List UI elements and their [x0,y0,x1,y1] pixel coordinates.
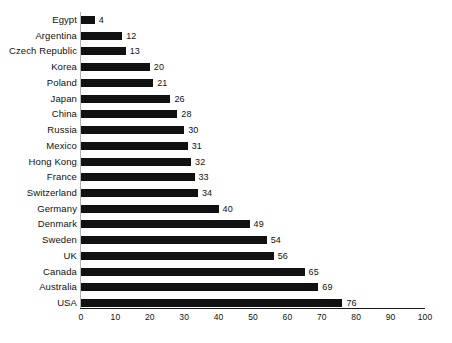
bar [81,47,126,55]
bar-value-label: 20 [154,63,164,72]
x-axis-tick-label: 0 [79,313,84,322]
bar-row: Japan26 [0,91,452,107]
x-axis-tick-label: 20 [145,313,155,322]
bar-value-label: 13 [130,47,140,56]
bar-value-label: 56 [278,251,288,260]
bar-value-label: 21 [157,78,167,87]
bar-value-label: 69 [322,283,332,292]
bar-category-label: Korea [51,62,77,72]
bar-row: USA76 [0,295,452,311]
bar-category-label: Czech Republic [9,47,77,57]
bar-category-label: Australia [39,283,77,293]
x-axis-tick-label: 50 [248,313,258,322]
x-axis-tick-label: 90 [386,313,396,322]
bar-category-label: Canada [43,267,77,277]
bar-value-label: 4 [99,16,104,25]
bar-row: Switzerland34 [0,185,452,201]
bar-row: Denmark49 [0,217,452,233]
bar-category-label: France [47,172,77,182]
bar-category-label: Argentina [35,31,77,41]
bar [81,189,198,197]
plot-area: Egypt4Argentina12Czech Republic13Korea20… [0,0,452,343]
bar-row: China28 [0,107,452,123]
bar-category-label: China [52,110,77,120]
bar [81,63,150,71]
bar-row: Argentina12 [0,28,452,44]
bar [81,299,342,307]
bar-row: Czech Republic13 [0,44,452,60]
bar-category-label: Sweden [42,235,77,245]
bar-row: Egypt4 [0,12,452,28]
bar [81,16,95,24]
bar-category-label: Denmark [38,220,77,230]
bar-category-label: Poland [47,78,77,88]
bar [81,268,305,276]
bar-category-label: Russia [47,125,77,135]
bar-row: Canada65 [0,264,452,280]
bar [81,236,267,244]
bar [81,205,219,213]
x-axis-tick-label: 30 [179,313,189,322]
bar-value-label: 76 [346,299,356,308]
bar [81,283,318,291]
bar-row: Hong Kong32 [0,154,452,170]
bar [81,95,170,103]
bar [81,126,184,134]
bar-value-label: 32 [195,157,205,166]
bar-category-label: Mexico [46,141,77,151]
bar-value-label: 34 [202,188,212,197]
x-axis-tick-label: 60 [283,313,293,322]
bar [81,252,274,260]
bar [81,110,177,118]
bar [81,220,250,228]
bar-row: Russia30 [0,122,452,138]
bar-value-label: 65 [309,267,319,276]
bar-category-label: UK [64,251,77,261]
bar-row: France33 [0,169,452,185]
x-axis-tick-label: 70 [317,313,327,322]
bar-category-label: Egypt [52,15,77,25]
bar-category-label: USA [57,298,77,308]
bar [81,158,191,166]
x-axis-tick-label: 100 [418,313,432,322]
bar-value-label: 40 [223,204,233,213]
bar-row: Australia69 [0,279,452,295]
bar-chart: Egypt4Argentina12Czech Republic13Korea20… [0,0,452,343]
bar-row: UK56 [0,248,452,264]
bar-value-label: 33 [199,173,209,182]
x-axis-tick-label: 10 [111,313,121,322]
bar-category-label: Germany [37,204,77,214]
bar-value-label: 30 [188,126,198,135]
bar-category-label: Hong Kong [29,157,77,167]
bar-value-label: 12 [126,31,136,40]
bar-value-label: 54 [271,236,281,245]
bar [81,79,153,87]
bar-row: Sweden54 [0,232,452,248]
bar [81,142,188,150]
bar [81,173,195,181]
x-axis-tick-label: 40 [214,313,224,322]
bar-value-label: 26 [174,94,184,103]
x-axis-tick-label: 80 [351,313,361,322]
bar-value-label: 28 [181,110,191,119]
bar-value-label: 31 [192,141,202,150]
bar-row: Mexico31 [0,138,452,154]
bar-value-label: 49 [254,220,264,229]
bar-row: Poland21 [0,75,452,91]
bar-category-label: Japan [51,94,77,104]
bar [81,32,122,40]
bar-row: Germany40 [0,201,452,217]
bar-category-label: Switzerland [27,188,77,198]
bar-row: Korea20 [0,59,452,75]
